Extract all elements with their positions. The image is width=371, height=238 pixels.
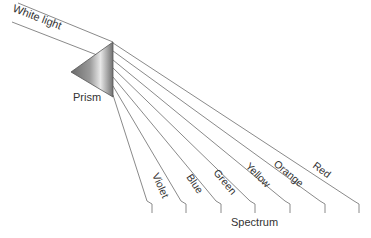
band-label-blue: Blue <box>184 171 206 195</box>
band-label-red: Red <box>311 159 334 180</box>
ray-boundary-6 <box>113 51 325 213</box>
ray-boundary-1 <box>113 95 152 213</box>
band-label-orange: Orange <box>272 157 307 189</box>
prism-shape <box>71 42 113 97</box>
band-label-violet: Violet <box>150 171 172 200</box>
prism-diagram: White light Prism Violet Blue Green Yell… <box>0 0 371 238</box>
white-light-label: White light <box>11 2 63 32</box>
spectrum-label: Spectrum <box>231 216 278 228</box>
ray-boundary-2 <box>113 86 186 213</box>
band-label-green: Green <box>211 167 239 197</box>
prism-label: Prism <box>73 91 101 103</box>
